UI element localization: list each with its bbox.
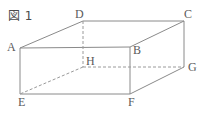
vertex-label-g: G	[188, 61, 197, 73]
vertex-label-c: C	[184, 8, 192, 20]
vertex-label-d: D	[75, 8, 84, 20]
edge-AD	[20, 21, 83, 48]
figure-container: 図 1 ABCDEFGH	[0, 0, 203, 114]
vertex-label-h: H	[86, 55, 95, 67]
cuboid-diagram	[0, 0, 203, 114]
vertex-label-a: A	[7, 41, 16, 53]
vertex-label-f: F	[128, 96, 135, 108]
vertex-label-e: E	[18, 96, 25, 108]
edge-BA	[20, 47, 130, 48]
edge-group	[20, 21, 184, 94]
edge-FG	[130, 67, 184, 94]
vertex-label-b: B	[133, 44, 141, 56]
edge-HE	[20, 67, 83, 94]
